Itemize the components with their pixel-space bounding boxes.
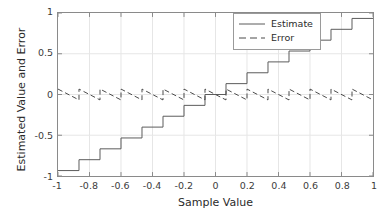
plot-area [57, 12, 374, 177]
y-tick-label: 0.5 [3, 49, 53, 59]
y-axis-tick-labels: -1-0.500.51 [0, 12, 53, 177]
legend-label-error: Error [271, 33, 294, 43]
x-tick-label: -0.4 [143, 181, 162, 191]
y-tick-label: -0.5 [3, 131, 53, 141]
chart-figure: Estimated Value and Error -1-0.500.51 -1… [0, 0, 390, 217]
x-tick-label: 0.8 [335, 181, 350, 191]
y-tick-label: 1 [3, 7, 53, 17]
legend-line-dashed-icon [238, 33, 266, 43]
x-tick-label: 0.2 [240, 181, 255, 191]
x-tick-label: -0.6 [111, 181, 130, 191]
x-tick-label: 0 [212, 181, 218, 191]
legend-item-estimate: Estimate [238, 17, 316, 31]
x-tick-label: 0.4 [271, 181, 286, 191]
x-tick-label: -1 [52, 181, 61, 191]
chart-canvas [58, 13, 373, 176]
x-tick-label: 1 [371, 181, 377, 191]
x-axis-label: Sample Value [57, 197, 374, 208]
legend-label-estimate: Estimate [271, 19, 313, 29]
x-axis-tick-labels: -1-0.8-0.6-0.4-0.200.20.40.60.81 [57, 181, 374, 195]
legend: Estimate Error [233, 13, 321, 50]
legend-item-error: Error [238, 31, 316, 45]
legend-line-solid-icon [238, 19, 266, 29]
y-tick-label: -1 [3, 172, 53, 182]
y-tick-label: 0 [3, 90, 53, 100]
x-tick-label: -0.2 [175, 181, 194, 191]
x-tick-label: 0.6 [303, 181, 318, 191]
x-tick-label: -0.8 [79, 181, 98, 191]
